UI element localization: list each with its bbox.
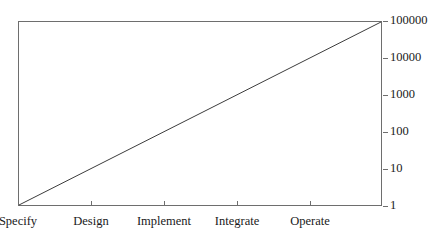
x-axis: SpecifyDesignImplementIntegrateOperate bbox=[0, 0, 439, 244]
x-axis-tick-label: Implement bbox=[137, 213, 191, 229]
x-axis-tickmark bbox=[91, 201, 92, 206]
x-axis-tick-label: Integrate bbox=[215, 213, 259, 229]
x-axis-tickmark bbox=[237, 201, 238, 206]
x-axis-tick-label: Operate bbox=[290, 213, 330, 229]
x-axis-tickmark bbox=[18, 201, 19, 206]
x-axis-tickmark bbox=[164, 201, 165, 206]
x-axis-tick-label: Specify bbox=[0, 213, 37, 229]
x-axis-tick-label: Design bbox=[73, 213, 108, 229]
chart-figure: 100000100001000100101 SpecifyDesignImple… bbox=[0, 0, 439, 244]
x-axis-tickmark bbox=[310, 201, 311, 206]
